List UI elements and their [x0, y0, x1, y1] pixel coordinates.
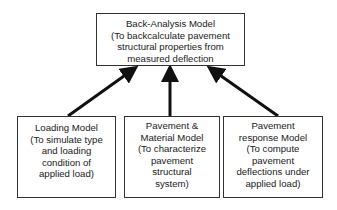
pavement-response-model-box: Pavement response Model (To compute pave… [223, 116, 323, 198]
pavement-material-model-box: Pavement & Material Model (To characteri… [124, 116, 220, 198]
box-line: and loading [42, 145, 92, 157]
box-line: (To characterize [138, 143, 206, 155]
box-line: condition of [42, 157, 91, 169]
loading-model-box: Loading Model (To simulate type and load… [17, 116, 116, 198]
box-line: applied load) [39, 168, 94, 180]
box-line: pavement [252, 155, 294, 167]
box-line: (To simulate type [30, 134, 103, 146]
box-line: deflections under [236, 166, 309, 178]
box-line: (To backcalculate pavement [111, 30, 230, 42]
box-line: structural [152, 166, 191, 178]
box-line: measured deflection [127, 53, 213, 65]
box-line: (To compute [247, 143, 300, 155]
box-line: pavement [151, 155, 193, 167]
box-line: system) [155, 178, 189, 190]
box-line: structural properties from [117, 41, 224, 53]
box-line: response Model [239, 132, 307, 144]
arrow-loading-to-backanalysis [68, 71, 131, 116]
box-line: Material Model [141, 132, 204, 144]
arrow-response-to-backanalysis [214, 71, 278, 116]
box-line: Pavement [251, 120, 294, 132]
box-line: Back-Analysis Model [126, 18, 215, 30]
box-line: Loading Model [35, 122, 98, 134]
box-line: Pavement & [146, 120, 198, 132]
box-line: applied load) [246, 178, 301, 190]
back-analysis-model-box: Back-Analysis Model (To backcalculate pa… [96, 13, 245, 66]
